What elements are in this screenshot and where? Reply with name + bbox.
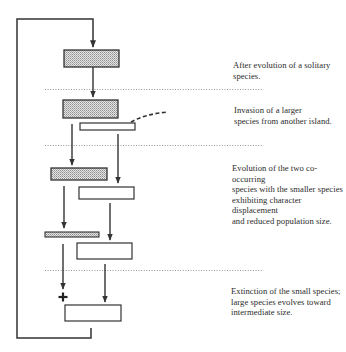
small-species-box (63, 100, 118, 118)
stage-4-caption: Extinction of the small species; large s… (231, 286, 346, 318)
invader-species-box (80, 123, 135, 130)
stage-2-caption: Invasion of a larger species from anothe… (234, 105, 346, 126)
intermediate-species-box (65, 305, 121, 321)
extinction-cross-icon (59, 293, 68, 302)
solitary-species-box (64, 50, 119, 67)
small-species-box-reduced (45, 232, 99, 237)
stage-1-caption: After evolution of a solitary species. (233, 60, 346, 81)
large-species-box-2 (77, 243, 132, 259)
large-species-box (79, 187, 134, 199)
invasion-path-dashed (131, 112, 168, 122)
small-species-box-displaced (51, 168, 107, 180)
stage-3-caption: Evolution of the two co-occurring specie… (232, 163, 346, 227)
stage-3-group (45, 168, 134, 259)
